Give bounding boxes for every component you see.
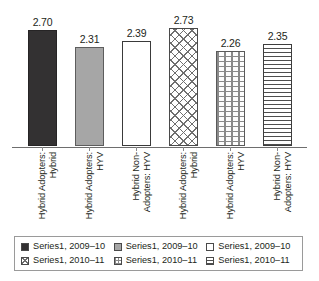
legend-label-2: Series1, 2009–10 — [126, 241, 198, 252]
x-axis-category-label-3: Hybrid Non-Adopters: HYV — [131, 152, 145, 228]
bar-group-4: 2.73 — [169, 15, 198, 146]
legend-swatch-white-icon — [206, 243, 214, 251]
bar-group-1: 2.70 — [28, 17, 57, 146]
bar-value-label-2: 2.31 — [80, 34, 100, 45]
x-axis-category-label-2: Hybrid Adopters: HYV — [84, 152, 98, 228]
bar-value-label-1: 2.70 — [33, 17, 53, 28]
x-axis-category-label-1: Hybrid Adopters: Hybrid — [37, 152, 51, 228]
legend-swatch-crosshatch-icon — [21, 257, 29, 265]
x-axis-tick-4 — [183, 147, 184, 151]
bar-5 — [216, 51, 245, 146]
legend-item-3[interactable]: Series1, 2009–10 — [206, 241, 297, 252]
bar-value-label-3: 2.39 — [127, 28, 147, 39]
chart-legend: Series1, 2009–10 Series1, 2009–10 Series… — [14, 236, 303, 271]
bar-4 — [169, 28, 198, 146]
bar-value-label-4: 2.73 — [174, 15, 194, 26]
x-axis-tick-1 — [42, 147, 43, 151]
legend-label-6: Series1, 2010–11 — [218, 255, 289, 266]
bar-value-label-5: 2.26 — [221, 38, 241, 49]
legend-swatch-solid-gray-icon — [114, 243, 122, 251]
x-axis-tick-3 — [136, 147, 137, 151]
legend-item-1[interactable]: Series1, 2009–10 — [21, 241, 112, 252]
legend-swatch-horizontal-stripes-icon — [206, 257, 214, 265]
legend-item-2[interactable]: Series1, 2009–10 — [114, 241, 205, 252]
legend-label-5: Series1, 2010–11 — [126, 255, 197, 266]
x-axis-category-label-5: Hybrid Adopters: HYV — [225, 152, 239, 228]
legend-item-5[interactable]: Series1, 2010–11 — [114, 255, 205, 266]
legend-label-4: Series1, 2010–11 — [33, 255, 104, 266]
x-axis-tick-2 — [89, 147, 90, 151]
bar-group-6: 2.35 — [263, 31, 292, 146]
x-axis-line — [12, 147, 307, 148]
bar-1 — [28, 30, 57, 146]
bar-2 — [75, 47, 104, 146]
legend-label-3: Series1, 2009–10 — [218, 241, 290, 252]
bar-3 — [122, 41, 151, 146]
x-axis-category-label-4: Hybrid Adopters: Hybrid — [178, 152, 192, 228]
x-axis-tick-5 — [230, 147, 231, 151]
bar-value-label-6: 2.35 — [268, 31, 288, 42]
legend-swatch-dots-icon — [114, 257, 122, 265]
bar-6 — [263, 44, 292, 146]
legend-label-1: Series1, 2009–10 — [33, 241, 105, 252]
x-axis-tick-6 — [277, 147, 278, 151]
legend-item-4[interactable]: Series1, 2010–11 — [21, 255, 112, 266]
bar-group-5: 2.26 — [216, 38, 245, 146]
legend-swatch-solid-dark-icon — [21, 243, 29, 251]
legend-item-6[interactable]: Series1, 2010–11 — [206, 255, 297, 266]
bar-chart-plot-area: 2.70 2.31 2.39 2.73 2.26 2.35 — [0, 0, 319, 150]
bar-group-2: 2.31 — [75, 34, 104, 146]
bar-group-3: 2.39 — [122, 28, 151, 146]
x-axis-category-label-6: Hybrid Non-Adopters: HYV — [272, 152, 286, 228]
